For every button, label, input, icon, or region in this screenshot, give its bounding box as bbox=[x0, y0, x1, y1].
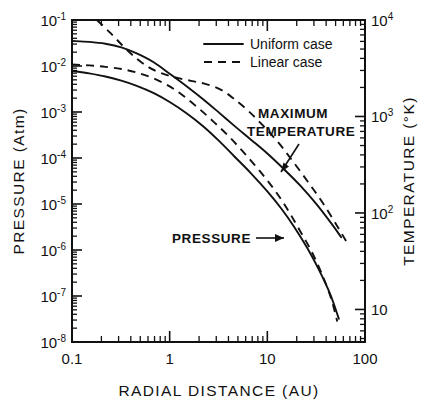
y-tick-label: 10-2 bbox=[40, 57, 66, 75]
y-tick-label: 10-3 bbox=[40, 103, 66, 121]
series-curve-0 bbox=[72, 41, 341, 237]
legend-label-linear: Linear case bbox=[250, 54, 323, 70]
annotation-pressure-arrowhead bbox=[275, 234, 284, 242]
y-tick-label: 10-7 bbox=[40, 287, 66, 305]
y-tick-label: 10-6 bbox=[40, 241, 66, 259]
chart-svg: 10-110-210-310-410-510-610-710-8 1041031… bbox=[0, 0, 430, 406]
y-tick-label: 10-5 bbox=[40, 195, 66, 213]
y2-axis-tick-labels: 10410310210 bbox=[371, 11, 394, 318]
y2-tick-label: 10 bbox=[371, 301, 388, 318]
annotation-maximum-temperature: MAXIMUM TEMPERATURE bbox=[247, 106, 355, 172]
x-axis-tick-labels: 0.1110100 bbox=[62, 350, 378, 367]
x-tick-label: 0.1 bbox=[62, 350, 83, 367]
annotation-max-temp-line2: TEMPERATURE bbox=[247, 124, 355, 139]
annotation-max-temp-line1: MAXIMUM bbox=[258, 106, 328, 121]
figure-container: 10-110-210-310-410-510-610-710-8 1041031… bbox=[0, 0, 430, 406]
y2-tick-label: 103 bbox=[371, 107, 394, 125]
y-tick-label: 10-1 bbox=[40, 11, 66, 29]
x-tick-label: 10 bbox=[259, 350, 276, 367]
y2-axis-title: TEMPERATURE (°K) bbox=[400, 96, 417, 266]
legend-label-uniform: Uniform case bbox=[250, 36, 333, 52]
annotation-pressure: PRESSURE bbox=[172, 231, 284, 246]
annotation-pressure-label: PRESSURE bbox=[172, 231, 251, 246]
y-tick-label: 10-4 bbox=[40, 149, 66, 167]
legend: Uniform case Linear case bbox=[204, 36, 333, 70]
y-axis-title: PRESSURE (Atm) bbox=[10, 107, 27, 254]
y-tick-label: 10-8 bbox=[40, 333, 66, 351]
y-axis-tick-labels: 10-110-210-310-410-510-610-710-8 bbox=[40, 11, 66, 351]
x-tick-label: 1 bbox=[165, 350, 173, 367]
y2-tick-label: 104 bbox=[371, 11, 394, 29]
x-axis-title: RADIAL DISTANCE (AU) bbox=[118, 382, 319, 399]
series-curve-3 bbox=[72, 64, 337, 321]
y2-tick-label: 102 bbox=[371, 204, 394, 222]
x-tick-label: 100 bbox=[352, 350, 377, 367]
